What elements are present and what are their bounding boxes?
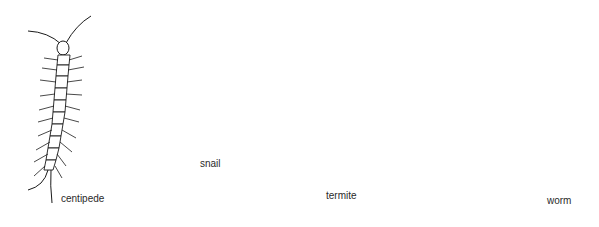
snail-label: snail (200, 158, 221, 169)
worm-label: worm (547, 195, 571, 206)
centipede-label: centipede (61, 193, 104, 204)
termite-label: termite (326, 190, 357, 201)
animal-illustration-figure: centipede snail termite worm (0, 0, 599, 227)
centipede-drawing (28, 16, 91, 203)
